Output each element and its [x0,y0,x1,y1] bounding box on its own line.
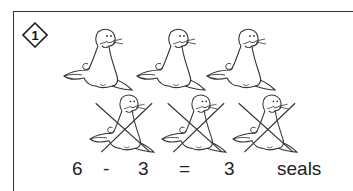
seal-icon [62,26,134,92]
equation-result: 3 [224,158,235,180]
equation-subtrahend: 3 [138,158,149,180]
seal-icon [205,26,277,92]
crossed-seal-icon [158,92,230,154]
crossed-seal-icon [86,92,158,154]
equation-equals: = [179,158,190,180]
problem-number: 1 [22,22,48,48]
crossed-seal-icon [229,92,301,154]
seal-icon [135,26,207,92]
equation-operator: - [103,158,109,180]
equation-unit: seals [277,158,321,180]
cross-mark-icon [96,103,150,152]
problem-number-badge: 1 [22,22,48,48]
equation-minuend: 6 [72,158,83,180]
